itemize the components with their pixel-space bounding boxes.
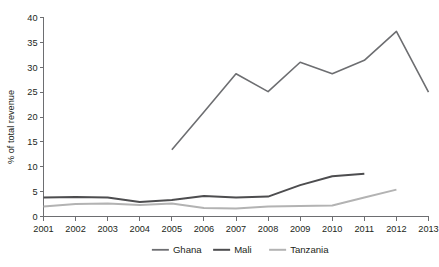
x-tick-label: 2003	[97, 224, 117, 234]
x-tick-label: 2010	[322, 224, 342, 234]
legend-label-mali: Mali	[234, 244, 252, 255]
y-tick-label: 5	[32, 187, 37, 197]
y-tick-label: 10	[27, 162, 37, 172]
x-tick-label: 2013	[418, 224, 438, 234]
series-layer	[44, 31, 429, 208]
chart-legend: GhanaMaliTanzania	[152, 244, 329, 255]
y-tick-label: 40	[27, 13, 37, 23]
x-tick-label: 2001	[33, 224, 53, 234]
legend-label-tanzania: Tanzania	[290, 244, 329, 255]
x-tick-label: 2011	[354, 224, 374, 234]
x-tick-label: 2006	[194, 224, 214, 234]
x-axis: 2001200220032004200520062007200820092010…	[33, 217, 438, 234]
line-chart: 0510152025303540 20012002200320042005200…	[0, 0, 439, 267]
series-line-ghana	[172, 31, 429, 149]
chart-canvas: 0510152025303540 20012002200320042005200…	[0, 0, 439, 267]
x-tick-label: 2007	[226, 224, 246, 234]
y-tick-label: 25	[27, 87, 37, 97]
y-axis: 0510152025303540	[27, 13, 43, 222]
legend-label-ghana: Ghana	[173, 244, 202, 255]
y-tick-label: 30	[27, 63, 37, 73]
x-tick-label: 2008	[258, 224, 278, 234]
series-line-tanzania	[44, 190, 397, 209]
x-tick-label: 2005	[162, 224, 182, 234]
x-tick-label: 2004	[130, 224, 150, 234]
y-tick-label: 20	[27, 112, 37, 122]
series-line-mali	[44, 174, 365, 202]
y-tick-label: 15	[27, 137, 37, 147]
y-tick-label: 0	[32, 212, 37, 222]
y-axis-title: % of total revenue	[6, 90, 16, 164]
y-tick-label: 35	[27, 38, 37, 48]
x-tick-label: 2002	[65, 224, 85, 234]
x-tick-label: 2012	[386, 224, 406, 234]
x-tick-label: 2009	[290, 224, 310, 234]
